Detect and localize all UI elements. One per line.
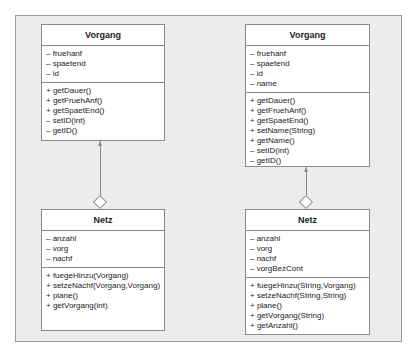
- attribute: – vorgBezCont: [250, 264, 365, 274]
- attribute: – spaetend: [46, 59, 160, 69]
- attribute: – fruehanf: [250, 49, 365, 59]
- attributes-section: – fruehanf – spaetend – id: [42, 46, 164, 82]
- method: – getID(): [46, 126, 160, 136]
- association-line: [100, 141, 101, 199]
- attributes-section: – anzahl – vorg – nachf: [42, 231, 164, 267]
- method: + getDauer(): [46, 86, 160, 96]
- attribute: – vorg: [46, 244, 160, 254]
- method: + getSpaetEnd(): [46, 106, 160, 116]
- attributes-section: – anzahl – vorg – nachf – vorgBezCont: [246, 231, 369, 277]
- method: – getID(): [250, 156, 365, 166]
- class-vorgang-right: Vorgang – fruehanf – spaetend – id – nam…: [245, 24, 370, 167]
- attribute: – fruehanf: [46, 49, 160, 59]
- attribute: – id: [250, 69, 365, 79]
- method: + setzeNachf(Vorgang,Vorgang): [46, 281, 160, 291]
- class-name: Netz: [42, 210, 164, 231]
- method: + setzeNachf(String,String): [250, 291, 365, 301]
- method: + plane(): [250, 301, 365, 311]
- class-vorgang-left: Vorgang – fruehanf – spaetend – id + get…: [41, 24, 165, 141]
- method: + setName(String): [250, 126, 365, 136]
- class-netz-right: Netz – anzahl – vorg – nachf – vorgBezCo…: [245, 209, 370, 335]
- method: – setID(int): [46, 116, 160, 126]
- method: + getAnzahl(): [250, 321, 365, 331]
- method: + getSpaetEnd(): [250, 116, 365, 126]
- methods-section: + getDauer() + getFruehAnf() + getSpaetE…: [246, 92, 369, 169]
- attribute: – spaetend: [250, 59, 365, 69]
- methods-section: + fuegeHinzu(String,Vorgang) + setzeNach…: [246, 277, 369, 334]
- method: + fuegeHinzu(String,Vorgang): [250, 281, 365, 291]
- method: + getDauer(): [250, 96, 365, 106]
- method: + plane(): [46, 291, 160, 301]
- attribute: – id: [46, 69, 160, 79]
- method: + getFruehAnf(): [250, 106, 365, 116]
- class-name: Netz: [246, 210, 369, 231]
- methods-section: + getDauer() + getFruehAnf() + getSpaetE…: [42, 82, 164, 139]
- attribute: – vorg: [250, 244, 365, 254]
- method: + fuegeHinzu(Vorgang): [46, 271, 160, 281]
- method: + getVorgang(int): [46, 301, 160, 311]
- attributes-section: – fruehanf – spaetend – id – name: [246, 46, 369, 92]
- attribute: – anzahl: [250, 234, 365, 244]
- method: + getFruehAnf(): [46, 96, 160, 106]
- class-name: Vorgang: [246, 25, 369, 46]
- methods-section: + fuegeHinzu(Vorgang) + setzeNachf(Vorga…: [42, 267, 164, 314]
- class-name: Vorgang: [42, 25, 164, 46]
- method: + getVorgang(String): [250, 311, 365, 321]
- attribute: – nachf: [46, 254, 160, 264]
- attribute: – nachf: [250, 254, 365, 264]
- method: + getName(): [250, 136, 365, 146]
- class-netz-left: Netz – anzahl – vorg – nachf + fuegeHinz…: [41, 209, 165, 331]
- attribute: – anzahl: [46, 234, 160, 244]
- attribute: – name: [250, 79, 365, 89]
- method: – setID(int): [250, 146, 365, 156]
